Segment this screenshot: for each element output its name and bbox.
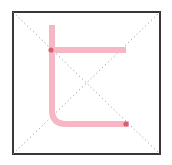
diagram-container (0, 0, 172, 165)
folded-path-diagram (0, 0, 172, 165)
marker-top-left (48, 47, 53, 52)
marker-bottom-right (123, 121, 128, 126)
